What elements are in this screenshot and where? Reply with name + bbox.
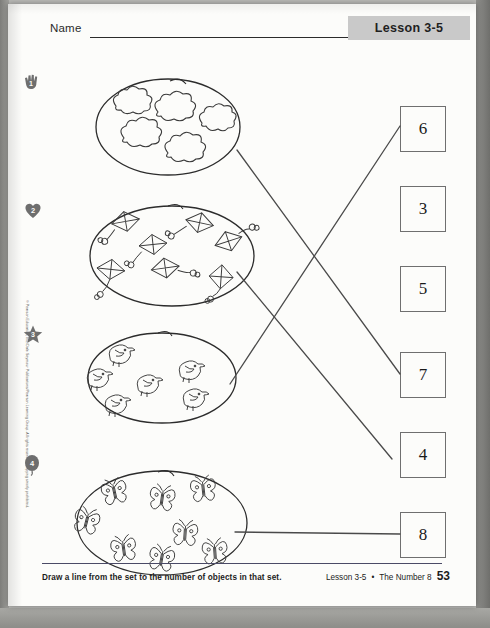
set-marker-3: 3 — [22, 324, 44, 346]
instruction-text: Draw a line from the set to the number o… — [42, 573, 282, 582]
footer-separator-icon: • — [371, 573, 374, 582]
worksheet-page: Name Lesson 3-5 © Pearson Education, Inc… — [8, 4, 476, 606]
svg-text:3: 3 — [31, 331, 35, 338]
number-box-4[interactable]: 4 — [400, 432, 446, 478]
number-box-5[interactable]: 5 — [400, 266, 446, 312]
set-2-kites — [80, 200, 266, 312]
set-1-clouds — [86, 72, 256, 182]
number-box-3[interactable]: 3 — [400, 186, 446, 232]
page-bottom-margin-shadow — [0, 608, 490, 628]
lesson-tab: Lesson 3-5 — [348, 16, 470, 40]
footer-topic: The Number 8 — [379, 573, 431, 582]
name-label: Name — [50, 22, 81, 34]
number-box-6[interactable]: 6 — [400, 106, 446, 152]
number-box-7[interactable]: 7 — [400, 352, 446, 398]
set-marker-4: 4 — [22, 454, 44, 476]
set-4-butterflies — [66, 464, 262, 582]
set-marker-2: 2 — [22, 200, 44, 222]
footer-divider — [42, 563, 442, 564]
page-number: 53 — [437, 569, 450, 583]
set-3-birds — [76, 326, 248, 430]
svg-text:2: 2 — [31, 206, 35, 215]
footer-lesson: Lesson 3-5 — [326, 573, 367, 582]
number-box-8[interactable]: 8 — [400, 512, 446, 558]
page-right-margin-shadow — [476, 0, 490, 628]
name-write-line[interactable] — [90, 37, 355, 38]
set-marker-1: 1 — [22, 72, 44, 94]
svg-text:1: 1 — [29, 80, 33, 87]
footer-meta: Lesson 3-5 • The Number 8 53 — [326, 569, 450, 583]
scanned-worksheet-page: Name Lesson 3-5 © Pearson Education, Inc… — [0, 0, 490, 628]
